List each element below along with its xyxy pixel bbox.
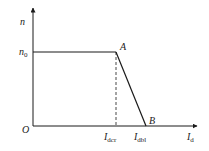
point-a-label: A xyxy=(119,41,127,52)
i-dcr-label: Idcr xyxy=(103,131,117,144)
y-axis-label: n xyxy=(20,16,25,27)
origin-label: O xyxy=(22,124,29,135)
x-axis-label: Id xyxy=(186,131,194,144)
slope-line-a-b xyxy=(116,52,146,126)
point-b-label: B xyxy=(149,115,155,126)
n0-label: n0 xyxy=(19,46,28,59)
speed-current-diagram: n n0 A B O Idcr Idbl Id xyxy=(0,0,209,151)
i-dbl-label: Idbl xyxy=(133,131,146,144)
